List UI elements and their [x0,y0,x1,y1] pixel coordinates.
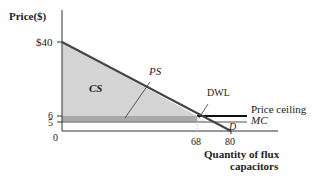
x-tick-label-68: 68 [191,136,201,147]
y-tick-label-5: 5 [48,117,53,128]
ps-label: PS [148,65,162,77]
demand-label: D [228,121,237,132]
x-tick-label-80: 80 [225,136,235,147]
y-tick-label-40: $40 [36,36,53,48]
surplus-chart: Price($) $40 6 5 0 68 80 Quantity of flu… [0,0,319,180]
x-axis-label-line1: Quantity of flux [204,148,280,160]
mc-label: MC [250,114,268,126]
ps-area [62,116,197,122]
dwl-label: DWL [207,87,230,98]
x-tick-label-0: 0 [53,132,58,143]
y-axis-label: Price($) [9,10,47,23]
cs-label: CS [89,82,102,94]
x-axis-label-line2: capacitors [230,160,279,172]
